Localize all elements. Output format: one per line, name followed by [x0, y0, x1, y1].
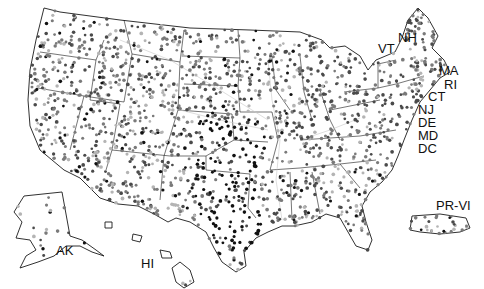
dot: [63, 70, 67, 74]
dot: [241, 182, 245, 186]
dot: [337, 214, 341, 218]
dot: [200, 95, 203, 98]
dot: [146, 60, 149, 63]
dot: [352, 155, 356, 159]
dot: [18, 212, 22, 216]
dot: [148, 41, 151, 44]
dot: [35, 97, 39, 101]
dot: [384, 102, 387, 105]
dot: [264, 53, 267, 56]
dot: [95, 88, 98, 91]
dot: [73, 61, 76, 64]
dot: [51, 68, 54, 71]
dot: [344, 92, 347, 95]
dot: [166, 30, 169, 33]
dot: [191, 79, 194, 82]
dot: [58, 79, 62, 83]
dot: [108, 47, 111, 50]
dot: [283, 99, 286, 102]
dot: [127, 122, 130, 125]
dot: [169, 183, 173, 187]
dot: [355, 168, 358, 171]
dot: [268, 42, 271, 45]
dot: [372, 63, 375, 66]
dot: [452, 228, 456, 232]
dot: [132, 88, 135, 91]
dot: [205, 61, 208, 64]
dot: [128, 195, 131, 198]
dot: [254, 56, 257, 59]
dot: [150, 95, 154, 99]
dot: [292, 215, 296, 219]
dot: [44, 113, 48, 117]
dot: [422, 13, 425, 16]
dot: [83, 47, 86, 50]
dot: [44, 231, 48, 235]
dot: [245, 225, 248, 228]
dot: [430, 68, 433, 71]
dot: [375, 141, 378, 144]
dot: [287, 172, 290, 175]
dot: [215, 36, 218, 39]
dot: [230, 74, 233, 77]
dot: [171, 100, 174, 103]
dot: [132, 44, 135, 47]
dot: [106, 156, 110, 160]
dot: [313, 115, 316, 118]
dot: [259, 155, 263, 159]
dot: [350, 66, 353, 69]
dot: [378, 140, 381, 143]
dot: [206, 192, 210, 196]
dot: [258, 214, 261, 217]
dot: [67, 231, 70, 234]
dot: [329, 127, 332, 130]
dot: [121, 147, 124, 150]
dot: [139, 49, 142, 52]
dot: [151, 57, 154, 60]
dot: [165, 88, 168, 91]
dot: [257, 67, 261, 71]
dot: [57, 40, 60, 43]
dot: [364, 109, 368, 113]
dot: [190, 120, 193, 123]
dot: [161, 130, 164, 133]
dot: [376, 161, 379, 164]
dot: [416, 65, 420, 69]
dot: [194, 60, 197, 63]
dot: [285, 112, 288, 115]
dot: [336, 55, 339, 58]
dot: [254, 175, 257, 178]
dot: [416, 8, 419, 11]
dot: [171, 108, 175, 112]
dot: [310, 109, 313, 112]
dot: [239, 207, 242, 210]
dot: [317, 176, 320, 179]
dot: [227, 69, 230, 72]
dot: [276, 135, 279, 138]
dot: [280, 131, 283, 134]
dot: [245, 188, 249, 192]
dot: [318, 54, 322, 58]
hawaii: [105, 222, 194, 288]
dot: [61, 91, 65, 95]
dot: [108, 34, 111, 37]
dot: [264, 71, 267, 74]
dot: [121, 197, 125, 201]
dot: [410, 220, 413, 223]
dot: [100, 82, 103, 85]
dot: [203, 68, 206, 71]
dot: [133, 119, 137, 123]
dot: [39, 239, 42, 242]
dot: [200, 83, 203, 86]
dot: [35, 127, 39, 131]
dot: [314, 41, 317, 44]
dot: [276, 129, 280, 133]
dot: [110, 190, 113, 193]
dot: [430, 63, 434, 67]
dot: [54, 126, 57, 129]
dot: [374, 83, 378, 87]
dot: [181, 77, 184, 80]
dot: [323, 100, 326, 103]
dot: [141, 199, 144, 202]
dot: [55, 42, 58, 45]
